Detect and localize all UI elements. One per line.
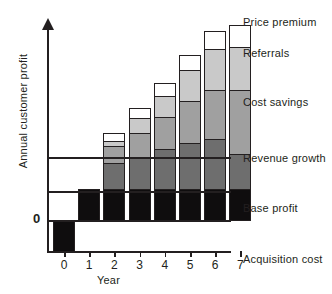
x-tick-2 — [114, 251, 116, 257]
segment-price-premium — [179, 55, 201, 71]
segment-base-profit — [129, 189, 151, 221]
segment-revenue-growth — [204, 139, 226, 191]
base-profit-reference-line — [47, 191, 231, 193]
segment-price-premium — [103, 133, 125, 142]
x-tick-7 — [240, 251, 242, 257]
x-tick-label-6: 6 — [207, 258, 223, 272]
x-tick-label-5: 5 — [182, 258, 198, 272]
x-tick-label-3: 3 — [132, 258, 148, 272]
bar-year-3 — [129, 0, 151, 294]
origin-label: 0 — [33, 211, 40, 226]
x-tick-label-4: 4 — [157, 258, 173, 272]
segment-base-profit — [78, 189, 100, 221]
legend-label-cost-savings: Cost savings — [243, 96, 308, 108]
y-axis-title: Annual customer profit — [17, 36, 29, 186]
segment-base-profit — [204, 189, 226, 221]
segment-acquisition-cost — [53, 220, 75, 252]
x-tick-6 — [215, 251, 217, 257]
x-tick-label-2: 2 — [106, 258, 122, 272]
segment-cost-savings — [204, 90, 226, 140]
x-tick-0 — [64, 251, 66, 257]
segment-base-profit — [154, 189, 176, 221]
segment-referrals — [179, 69, 201, 101]
segment-referrals — [204, 49, 226, 92]
segment-revenue-growth — [129, 156, 151, 190]
segment-referrals — [129, 118, 151, 134]
zero-reference-line — [47, 220, 231, 222]
segment-revenue-growth — [103, 162, 125, 190]
segment-referrals — [154, 96, 176, 118]
bar-year-4 — [154, 0, 176, 294]
segment-price-premium — [154, 83, 176, 98]
legend-label-revenue-growth: Revenue growth — [243, 152, 326, 164]
x-tick-1 — [89, 251, 91, 257]
bar-year-6 — [204, 0, 226, 294]
stacked-bar-chart: Annual customer profit Year 0 01234567 P… — [0, 0, 332, 294]
segment-price-premium — [204, 31, 226, 50]
segment-cost-savings — [129, 133, 151, 158]
segment-cost-savings — [179, 100, 201, 144]
legend-label-price-premium: Price premium — [243, 16, 317, 28]
x-tick-5 — [190, 251, 192, 257]
segment-revenue-growth — [154, 149, 176, 190]
legend-label-acquisition-cost: Acquisition cost — [243, 253, 323, 265]
segment-base-profit — [179, 189, 201, 221]
segment-price-premium — [129, 108, 151, 120]
segment-price-premium — [229, 25, 251, 48]
revenue-growth-reference-line — [47, 157, 231, 159]
bar-year-5 — [179, 0, 201, 294]
x-tick-label-1: 1 — [81, 258, 97, 272]
y-axis-line — [47, 28, 49, 252]
segment-cost-savings — [103, 146, 125, 164]
legend-label-base-profit: Base profit — [243, 202, 298, 214]
legend-label-referrals: Referrals — [243, 47, 289, 59]
bar-year-7 — [229, 0, 251, 294]
segment-cost-savings — [154, 117, 176, 151]
bar-year-1 — [78, 0, 100, 294]
segment-base-profit — [103, 189, 125, 221]
segment-revenue-growth — [179, 143, 201, 190]
x-tick-label-0: 0 — [56, 258, 72, 272]
x-tick-3 — [140, 251, 142, 257]
bar-year-0 — [53, 0, 75, 294]
x-tick-4 — [165, 251, 167, 257]
bar-year-2 — [103, 0, 125, 294]
